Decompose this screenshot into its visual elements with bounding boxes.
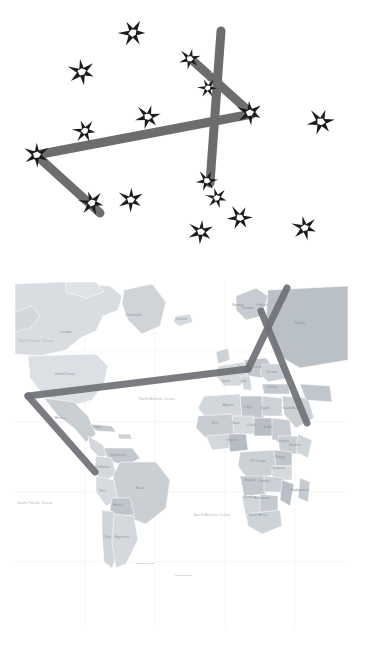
map-label-region: Chad <box>247 423 255 427</box>
constellation-lines <box>36 31 252 213</box>
map-label-region: United States <box>55 372 76 376</box>
map-label-region: Niger <box>232 421 240 425</box>
land-nigeria <box>228 434 248 452</box>
map-label-region: Greenland <box>125 313 141 317</box>
map-label-region: Algeria <box>223 403 234 407</box>
map-label-ocean: North Pacific Ocean <box>19 339 54 343</box>
map-label-region: Chile <box>103 535 111 539</box>
map-label-region: Italy <box>240 379 247 383</box>
constellation-stars <box>24 21 335 245</box>
map-label-region: Madagascar <box>291 488 310 492</box>
map-label-region: Canada <box>60 330 72 334</box>
star-star-left-spine <box>72 121 96 142</box>
map-label-region: Mexico <box>55 416 66 420</box>
map-label-region: Sudan <box>263 425 273 429</box>
map-label-region: Iceland <box>175 317 186 321</box>
star-star-lower-centre <box>189 220 213 244</box>
map-label-region: Ukraine <box>266 370 278 374</box>
map-label-region: Bolivia <box>113 503 123 507</box>
land-hispaniola <box>118 434 132 439</box>
map-label-ocean: South Atlantic Ocean <box>194 513 231 517</box>
map-label-region: Mali <box>212 421 218 425</box>
map-label-region: Venezuela <box>110 453 126 457</box>
map-label-region: Russia <box>295 321 305 325</box>
map-label-region: Finland <box>256 303 267 307</box>
map-label-ocean: South Pacific Ocean <box>17 501 52 505</box>
map-label-region: Nigeria <box>227 438 238 442</box>
map-label-region: Tanzania <box>271 466 285 470</box>
constellation-svg <box>0 0 366 276</box>
map-label-region: Egypt <box>261 406 270 410</box>
map-label-region: Botswana <box>255 496 270 500</box>
map-label-region: Ethiopia <box>277 439 290 443</box>
star-star-top-left-outer <box>118 21 146 46</box>
star-star-lower-mid <box>205 188 226 208</box>
star-star-lower-right <box>227 206 253 229</box>
map-label-region: Zambia <box>258 479 269 483</box>
star-star-upper-left <box>68 59 94 85</box>
map-label-note: Falkland Islands <box>136 562 155 565</box>
map-label-ocean: North Atlantic Ocean <box>139 397 175 401</box>
figure-root: North Atlantic OceanSouth Atlantic Ocean… <box>0 0 366 646</box>
map-label-region: Peru <box>99 489 106 493</box>
map-label-region: Kenya <box>275 455 285 459</box>
star-star-mid-junction <box>135 105 161 129</box>
constellation-panel <box>0 0 366 276</box>
constellation-segment-long-horizontal-spine <box>36 114 252 155</box>
star-star-far-right <box>307 110 335 135</box>
map-label-region: South Africa <box>249 513 268 517</box>
map-label-region: Libya <box>244 405 252 409</box>
map-label-region: Angola <box>245 478 256 482</box>
map-label-region: Argentina <box>115 535 130 539</box>
world-map-svg: North Atlantic OceanSouth Atlantic Ocean… <box>0 276 366 646</box>
map-label-note: South Georgia <box>175 574 192 577</box>
world-map-panel: North Atlantic OceanSouth Atlantic Ocean… <box>0 276 366 646</box>
map-label-region: Brazil <box>136 486 145 490</box>
map-label-region: Turkey <box>267 385 278 389</box>
land-northwest-africa <box>198 394 242 418</box>
constellation-segment-apex-to-bottom-right <box>210 31 221 183</box>
map-label-region: Sweden <box>242 306 254 310</box>
map-label-region: Cuba <box>93 425 101 429</box>
star-star-below-spine <box>119 188 143 213</box>
map-label-region: Colombia <box>96 465 110 469</box>
star-star-bottom-right-outer <box>291 216 316 240</box>
map-label-region: DR Congo <box>250 459 266 463</box>
map-label-region: Somalia <box>289 443 301 447</box>
map-label-region: Spain <box>222 379 231 383</box>
